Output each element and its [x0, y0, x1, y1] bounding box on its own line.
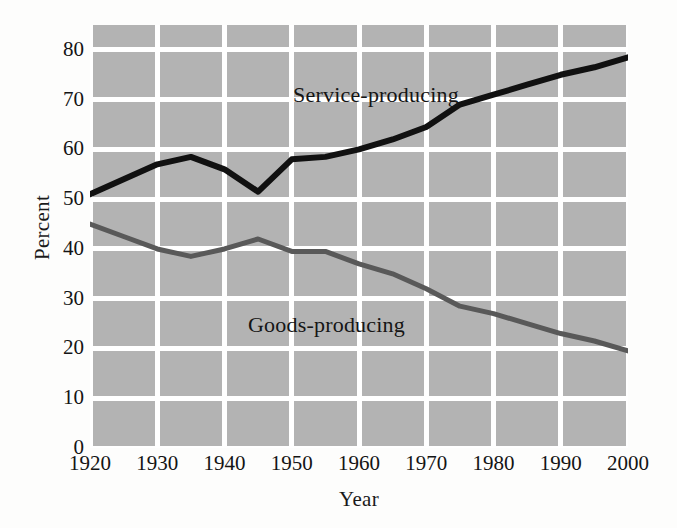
y-axis-tick-labels: 01020304050607080 [36, 0, 84, 528]
y-tick-label: 60 [40, 138, 84, 159]
x-axis-title: Year [289, 487, 429, 512]
y-tick-label: 30 [40, 288, 84, 309]
chart-figure: Percent 01020304050607080 Service-produc… [0, 0, 677, 528]
y-tick-label: 80 [40, 39, 84, 60]
y-tick-label: 10 [40, 387, 84, 408]
y-tick-label: 40 [40, 238, 84, 259]
y-tick-label: 70 [40, 89, 84, 110]
series-label-service-producing: Service-producing [293, 82, 459, 108]
y-tick-label: 20 [40, 337, 84, 358]
x-axis-tick-labels: 192019301940195019601970198019902000 [0, 452, 677, 482]
y-tick-label: 50 [40, 188, 84, 209]
series-label-goods-producing: Goods-producing [248, 312, 405, 338]
x-tick-label: 2000 [588, 452, 668, 474]
